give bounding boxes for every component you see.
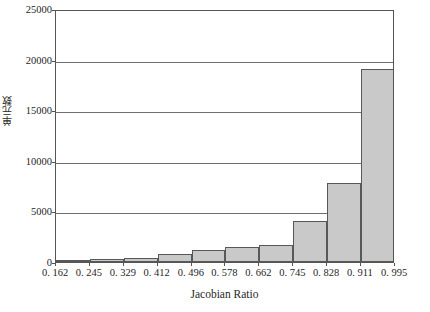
x-axis-tick-label: 0. 245: [76, 267, 102, 279]
y-axis-tick-label: 25000: [12, 4, 52, 15]
x-axis-tick-label: 0. 911: [347, 267, 373, 279]
x-axis-tick-mark: [123, 263, 124, 266]
x-axis-tick-label: 0. 412: [144, 267, 170, 279]
y-axis-tick-mark: [52, 111, 55, 112]
x-axis-title: Jacobian Ratio: [55, 288, 394, 300]
y-axis-tick-mark: [52, 61, 55, 62]
y-axis-tick-mark: [52, 162, 55, 163]
x-axis-tick-mark: [191, 263, 192, 266]
histogram-bar[interactable]: [90, 259, 124, 262]
x-axis-tick-label: 0. 662: [245, 267, 271, 279]
histogram-bar[interactable]: [361, 69, 394, 262]
x-axis-tick-mark: [55, 263, 56, 266]
x-axis-tick-label: 0. 162: [42, 267, 68, 279]
x-axis-tick-label: 0. 828: [313, 267, 339, 279]
histogram-bar[interactable]: [192, 250, 225, 262]
x-axis-tick-label: 0. 329: [110, 267, 136, 279]
x-axis-tick-mark: [224, 263, 225, 266]
histogram-bar[interactable]: [124, 258, 158, 262]
plot-area: [55, 10, 394, 263]
x-axis-tick-mark: [326, 263, 327, 266]
histogram-figure: 单元数 2500020000150001000050000 0. 1620. 2…: [0, 0, 430, 312]
x-axis-tick-label: 0. 745: [279, 267, 305, 279]
x-axis-tick-mark: [89, 263, 90, 266]
x-axis-tick-mark: [258, 263, 259, 266]
x-axis-tick-mark: [157, 263, 158, 266]
y-axis-tick-label: 5000: [12, 206, 52, 217]
y-axis-tick-label: 20000: [12, 55, 52, 66]
histogram-bar[interactable]: [293, 221, 327, 262]
y-axis-tick-label: 15000: [12, 105, 52, 116]
histogram-bar[interactable]: [259, 245, 293, 262]
histogram-bar[interactable]: [225, 247, 259, 262]
x-axis-tick-mark: [292, 263, 293, 266]
bar-series: [56, 11, 393, 262]
histogram-bar[interactable]: [56, 260, 90, 262]
x-axis-tick-mark: [394, 263, 395, 266]
histogram-bar[interactable]: [327, 183, 361, 262]
y-axis-tick-labels: 2500020000150001000050000: [8, 0, 52, 312]
x-axis-tick-label: 0. 578: [211, 267, 237, 279]
y-axis-tick-label: 10000: [12, 156, 52, 167]
x-axis-tick-mark: [360, 263, 361, 266]
x-axis-tick-label: 0. 995: [381, 267, 407, 279]
x-axis-tick-label: 0. 496: [178, 267, 204, 279]
histogram-bar[interactable]: [158, 254, 192, 262]
y-axis-tick-mark: [52, 10, 55, 11]
y-axis-tick-mark: [52, 212, 55, 213]
